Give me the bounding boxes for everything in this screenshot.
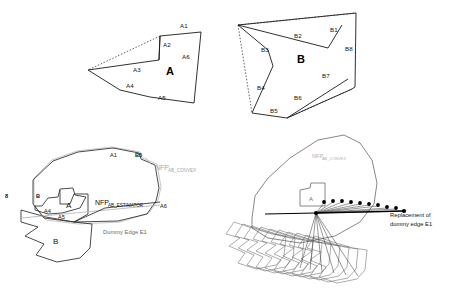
nfp-figure: A1 A2 A3 A4 A5 A6 A B1 B2 B3 B4 B5 B6 B7… [0, 0, 449, 293]
polygon-b-label-bl: B [53, 237, 58, 246]
edge-label-a2: A2 [163, 41, 171, 48]
edge-label-b8: B8 [345, 45, 353, 52]
edge-label-a3: A3 [133, 66, 141, 73]
figure-background [0, 0, 449, 293]
edge-label-b1: B1 [330, 26, 338, 33]
replacement-label-line2: dummy edge E1 [390, 221, 432, 227]
nfp-convex-label-sub: AB_CONVEX [168, 168, 196, 173]
edge-label-a6: A6 [182, 53, 190, 60]
edge-label-a5-bl: A5 [58, 214, 65, 220]
edge-label-b4: B4 [257, 84, 265, 91]
edge-label-a6-bl: A6 [160, 203, 167, 209]
edge-label-b6: B6 [294, 94, 302, 101]
nfp-convex-label-br-sub: AB_CONVEX [322, 156, 346, 161]
replacement-label-line1: Replacement of [390, 212, 431, 218]
polygon-a-label-br: A [309, 196, 313, 202]
polygon-b-center-label: B [297, 53, 305, 65]
polygon-a-center-label: A [166, 65, 174, 77]
polygon-a-label-bl: A [66, 201, 72, 210]
edge-label-a1-bl: A1 [110, 152, 117, 158]
edge-label-a4-bl: A4 [44, 208, 51, 214]
nfp-estimator-label-sub: AB_ESTIMATOR [108, 203, 144, 208]
dummy-edge-label: Dummy Edge E1 [103, 229, 147, 235]
edge-label-a4: A4 [126, 82, 134, 89]
edge-label-b3: B3 [261, 46, 269, 53]
edge-label-b5-bl: B5 [135, 152, 142, 158]
edge-label-b2: B2 [294, 32, 302, 39]
edge-label-b5: B5 [270, 107, 278, 114]
edge-label-a1: A1 [180, 22, 188, 29]
edge-label-b7: B7 [322, 72, 330, 79]
edge-label-a5: A5 [158, 94, 166, 101]
